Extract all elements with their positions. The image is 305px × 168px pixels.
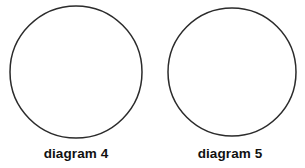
- figure-caption-diagram-5: diagram 5: [155, 146, 305, 161]
- figure-caption-diagram-4: diagram 4: [0, 146, 152, 161]
- circle-shape-1: [0, 0, 152, 145]
- figure-diagram-5: diagram 5: [155, 0, 305, 168]
- circle-shape-2: [155, 0, 305, 145]
- figure-sheet: diagram 4 diagram 5: [0, 0, 305, 168]
- figure-diagram-4: diagram 4: [0, 0, 152, 168]
